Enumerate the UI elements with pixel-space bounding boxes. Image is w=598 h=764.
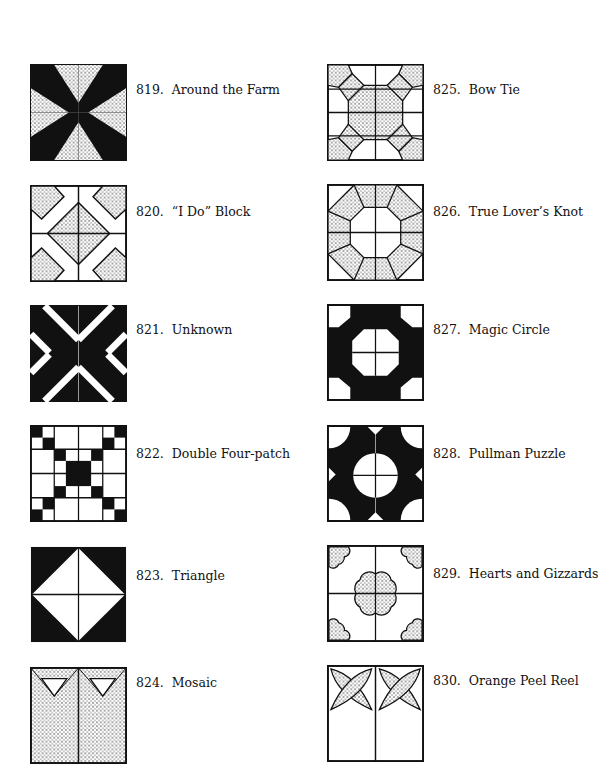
block-caption: 820. “I Do” Block [136, 204, 250, 219]
quilt-block-hearts-and-gizzards [327, 545, 424, 642]
block-number: 830. [433, 673, 461, 688]
quilt-block-unknown [30, 305, 127, 402]
block-number: 829. [433, 566, 461, 581]
block-name: Orange Peel Reel [469, 673, 579, 688]
block-number: 825. [433, 82, 461, 97]
block-caption: 826. True Lover’s Knot [433, 204, 583, 219]
block-name: Mosaic [172, 675, 217, 690]
block-caption: 825. Bow Tie [433, 82, 520, 97]
block-name: Bow Tie [469, 82, 520, 97]
block-caption: 828. Pullman Puzzle [433, 446, 566, 461]
block-number: 823. [136, 568, 164, 583]
block-name: Pullman Puzzle [469, 446, 566, 461]
quilt-block-pullman-puzzle [327, 425, 424, 522]
quilt-block-orange-peel-reel [327, 665, 424, 762]
block-name: “I Do” Block [172, 204, 251, 219]
block-caption: 821. Unknown [136, 322, 232, 337]
block-caption: 829. Hearts and Gizzards [433, 566, 598, 581]
block-number: 820. [136, 204, 164, 219]
block-number: 826. [433, 204, 461, 219]
quilt-block-double-four-patch [30, 425, 127, 522]
block-caption: 823. Triangle [136, 568, 225, 583]
quilt-block-around-the-farm [30, 64, 127, 161]
block-name: Unknown [172, 322, 233, 337]
block-caption: 824. Mosaic [136, 675, 217, 690]
quilt-block-i-do [30, 185, 127, 282]
block-name: True Lover’s Knot [469, 204, 583, 219]
quilt-block-triangle [30, 546, 127, 643]
block-name: Triangle [172, 568, 225, 583]
block-name: Around the Farm [172, 82, 280, 97]
block-caption: 830. Orange Peel Reel [433, 673, 579, 688]
block-number: 822. [136, 446, 164, 461]
block-number: 828. [433, 446, 461, 461]
block-name: Hearts and Gizzards [469, 566, 598, 581]
block-caption: 822. Double Four-patch [136, 446, 290, 461]
block-number: 821. [136, 322, 164, 337]
block-caption: 827. Magic Circle [433, 322, 550, 337]
quilt-block-magic-circle [327, 304, 424, 401]
block-name: Double Four-patch [172, 446, 290, 461]
quilt-block-true-lovers-knot [327, 184, 424, 281]
quilt-block-bow-tie [327, 64, 424, 161]
block-number: 819. [136, 82, 164, 97]
block-caption: 819. Around the Farm [136, 82, 280, 97]
block-name: Magic Circle [469, 322, 550, 337]
block-number: 827. [433, 322, 461, 337]
block-number: 824. [136, 675, 164, 690]
quilt-block-mosaic [30, 667, 127, 764]
